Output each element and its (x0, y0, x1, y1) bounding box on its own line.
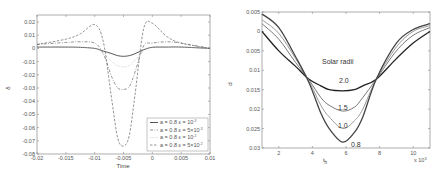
y-tick-label: 0.015 (246, 87, 260, 93)
x-tick-label: 0 (151, 155, 154, 161)
y-tick-label: 0.005 (246, 9, 260, 15)
x-tick-label: -0.005 (116, 155, 132, 161)
y-tick-label: -0.01 (22, 59, 35, 65)
y-tick-label: -0.07 (22, 138, 35, 144)
y-tick-label: -0.02 (22, 72, 35, 78)
y-tick-label: 0 (32, 45, 35, 51)
curve-label-1-0: 1.0 (338, 122, 348, 129)
x-tick-label: 0.01 (205, 155, 216, 161)
y-tick-label: 0.01 (24, 32, 35, 38)
y-tick-label: 0.025 (246, 126, 260, 132)
x-tick-label: 0.005 (174, 155, 188, 161)
left-chart: -0.02-0.015-0.01-0.00500.0050.01 0.020.0… (5, 15, 215, 169)
y-tick-label: 0.02 (24, 19, 35, 25)
legend-item: a = 0.8 ε = 10-3 (160, 119, 196, 125)
y-tick-label: 0 (257, 28, 260, 34)
x-tick-label: 8 (378, 150, 381, 156)
y-tick-label: -0.08 (22, 151, 35, 157)
annotation-solar-radii: Solar radii (322, 58, 354, 65)
x-tick-label: 2 (277, 150, 280, 156)
curve-label-0-8: 0.8 (351, 141, 361, 148)
y-tick-label: -0.06 (22, 125, 35, 131)
x-tick-label: 10 (410, 150, 416, 156)
right-chart: 246810 0.00500.0050.010.0150.020.0250.03… (227, 9, 430, 165)
y-tick-label: -0.03 (22, 85, 35, 91)
y-tick-label: 0.01 (249, 67, 260, 73)
y-tick-label: 0.02 (249, 106, 260, 112)
figure: -0.02-0.015-0.01-0.00500.0050.01 0.020.0… (0, 0, 446, 178)
left-x-axis-label: Time (116, 163, 130, 169)
x-multiplier: x 103 (414, 156, 427, 164)
left-y-axis-label: δ (5, 86, 11, 90)
y-tick-label: 0.005 (246, 48, 260, 54)
legend-item: a = 0.8 ε = 5×10-2 (160, 142, 203, 148)
y-tick-label: -0.05 (22, 111, 35, 117)
y-tick-label: 0.03 (249, 145, 260, 151)
right-x-axis-label: th (323, 157, 328, 165)
legend-item: a = 0.8 ε = 10-2 (160, 134, 196, 140)
x-tick-label: 6 (344, 150, 347, 156)
y-tick-label: -0.04 (22, 98, 35, 104)
curve-label-1-5: 1.5 (338, 104, 348, 111)
x-tick-label: -0.015 (58, 155, 74, 161)
left-legend: a = 0.8 ε = 10-3a = 0.8 ε = 5×10-3a = 0.… (147, 118, 208, 151)
right-y-axis-label: d (227, 82, 233, 85)
legend-item: a = 0.8 ε = 5×10-3 (160, 127, 203, 133)
curve-label-2-0: 2.0 (339, 77, 349, 84)
x-tick-label: -0.01 (88, 155, 101, 161)
x-tick-label: 4 (311, 150, 314, 156)
